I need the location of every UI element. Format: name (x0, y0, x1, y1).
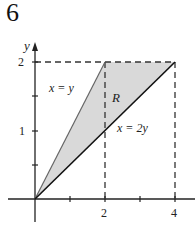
region-label: R (111, 90, 120, 105)
x-tick-label-2: 2 (101, 206, 107, 220)
y-axis-arrow-icon (32, 42, 38, 51)
curve-label-x-eq-y: x = y (48, 81, 74, 95)
y-axis-label: y (22, 38, 30, 53)
x-tick-label-4: 4 (171, 206, 177, 220)
curve-label-x-eq-2y: x = 2y (116, 121, 148, 135)
region-diagram: y 2 1 2 4 x = y x = 2y R (0, 0, 195, 227)
y-tick-label-1: 1 (19, 124, 25, 138)
y-tick-label-2: 2 (18, 55, 24, 69)
